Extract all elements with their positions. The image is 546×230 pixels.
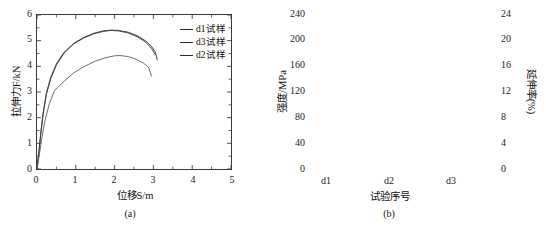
legend-item-d2: d2试样 [180, 50, 226, 61]
figure-container: 6 5 4 3 2 1 0 0 1 2 3 4 5 拉伸力F/kN 位移S/m … [0, 0, 546, 230]
xtick-b-d1: d1 [313, 176, 339, 186]
xtick-b-d3: d3 [438, 176, 464, 186]
panel-b: 240 200 160 120 80 40 0 24 20 16 12 8 4 … [273, 0, 546, 230]
legend-label-d1: d1试样 [196, 24, 226, 35]
xtick-a-1: 1 [65, 175, 85, 185]
legend-label-d3: d3试样 [196, 37, 226, 48]
legend-label-d2: d2试样 [196, 50, 226, 61]
ytick-b-40: 40 [279, 138, 305, 148]
x-axis-title-a: 位移S/m [100, 190, 170, 201]
ytick-b-0: 0 [279, 164, 305, 174]
xtick-a-3: 3 [143, 175, 163, 185]
ytick-a-0: 0 [12, 164, 32, 174]
ytick-b-200: 200 [279, 34, 305, 44]
ytick-a-5: 5 [12, 34, 32, 44]
legend-item-d1: d1试样 [180, 24, 226, 35]
xtick-a-4: 4 [183, 175, 203, 185]
x-axis-title-b: 试验序号 [355, 191, 425, 202]
y2tick-b-4: 4 [501, 138, 521, 148]
panel-b-caption: (b) [289, 208, 489, 219]
legend-line-icon-d1 [180, 29, 193, 30]
ytick-a-1: 1 [12, 138, 32, 148]
y2tick-b-12: 12 [501, 86, 521, 96]
xtick-a-0: 0 [26, 175, 46, 185]
y2tick-b-24: 24 [501, 9, 521, 19]
y2tick-b-8: 8 [501, 112, 521, 122]
panel-a: 6 5 4 3 2 1 0 0 1 2 3 4 5 拉伸力F/kN 位移S/m … [0, 0, 273, 230]
xtick-b-d2: d2 [376, 176, 402, 186]
line-chart-legend: d1试样 d3试样 d2试样 [180, 24, 226, 61]
xtick-a-5: 5 [222, 175, 242, 185]
legend-item-d3: d3试样 [180, 37, 226, 48]
ytick-a-6: 6 [12, 9, 32, 19]
legend-line-icon-d3 [180, 42, 193, 43]
panel-a-caption: (a) [30, 208, 230, 219]
y-axis-title-a: 拉伸力F/kN [11, 52, 22, 132]
y2tick-b-0: 0 [501, 164, 521, 174]
xtick-a-2: 2 [104, 175, 124, 185]
legend-line-icon-d2 [180, 55, 193, 56]
y2tick-b-20: 20 [501, 34, 521, 44]
ytick-b-240: 240 [279, 9, 305, 19]
y2tick-b-16: 16 [501, 60, 521, 70]
y2-axis-title-b: 延伸率(%) [526, 52, 537, 132]
y-axis-title-b: 强度/MPa [277, 53, 288, 131]
